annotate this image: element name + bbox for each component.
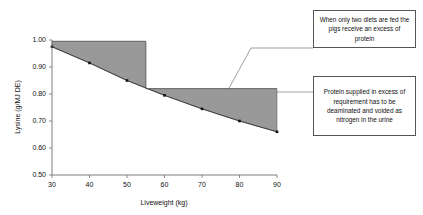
annotation-box-2-text: Protein supplied in excess of requiremen…: [318, 87, 411, 124]
x-axis-tick-label: 80: [236, 181, 244, 188]
data-point-marker: [238, 120, 241, 123]
annotation-box-deamination: Protein supplied in excess of requiremen…: [313, 76, 416, 136]
y-axis-tick-label: 0.80: [32, 90, 46, 97]
x-axis-tick-label: 50: [123, 181, 131, 188]
data-point-marker: [276, 131, 279, 134]
annotation-box-1-text: When only two diets are fed the pigs rec…: [318, 15, 411, 43]
x-axis-tick-label: 70: [198, 181, 206, 188]
x-axis-title: Liveweight (kg): [140, 199, 187, 207]
y-axis-tick-label: 1.00: [32, 36, 46, 43]
x-axis-tick-label: 30: [48, 181, 56, 188]
data-point-marker: [163, 94, 166, 97]
y-axis-title: Lysine (g/MJ DE): [14, 80, 22, 133]
x-axis-tick-label: 90: [273, 181, 281, 188]
data-point-marker: [201, 108, 204, 111]
annotation-box-excess-protein: When only two diets are fed the pigs rec…: [313, 10, 416, 48]
y-axis-tick-label: 0.90: [32, 63, 46, 70]
y-axis-tick-label: 0.50: [32, 171, 46, 178]
y-axis-tick-label: 0.70: [32, 117, 46, 124]
data-point-marker: [126, 79, 129, 82]
y-axis-tick-label: 0.60: [32, 144, 46, 151]
x-axis-tick-label: 40: [86, 181, 94, 188]
x-axis-tick-label: 60: [161, 181, 169, 188]
data-point-marker: [88, 62, 91, 65]
